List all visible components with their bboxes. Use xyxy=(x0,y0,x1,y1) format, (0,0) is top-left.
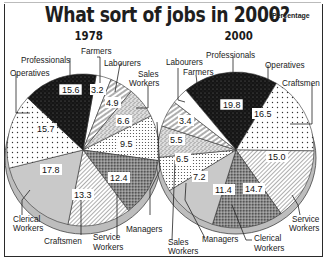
value-2000-operatives: 16.5 xyxy=(254,109,272,119)
label-1978-craftsmen: Craftsmen xyxy=(44,237,82,246)
value-2000-clerical: 11.4 xyxy=(215,185,232,195)
value-1978-craftsmen: 13.3 xyxy=(74,190,92,200)
value-1978-operatives: 15.7 xyxy=(37,124,55,134)
pie-charts-svg: Farmers Labourers Sales Workers Professi… xyxy=(0,0,325,264)
label-2000-sales-1: Sales xyxy=(168,238,188,247)
value-1978-sales: 6.6 xyxy=(117,116,130,126)
value-1978-farmers: 3.2 xyxy=(91,85,104,95)
label-2000-service-1: Service xyxy=(292,215,320,224)
value-2000-professionals: 19.8 xyxy=(223,100,241,110)
label-2000-craftsmen: Craftsmen xyxy=(282,79,320,88)
label-2000-farmers: Farmers xyxy=(183,68,213,77)
label-1978-service-2: Workers xyxy=(93,243,123,252)
label-1978-labourers: Labourers xyxy=(104,59,141,68)
value-1978-labourers: 4.9 xyxy=(106,98,119,108)
label-1978-operatives: Operatives xyxy=(10,69,50,78)
label-1978-farmers: Farmers xyxy=(81,47,111,56)
value-1978-professionals: 15.6 xyxy=(62,85,80,95)
label-2000-sales-2: Workers xyxy=(168,247,198,256)
value-2000-craftsmen: 15.0 xyxy=(268,152,286,162)
label-1978-clerical-1: Clerical xyxy=(13,215,40,224)
label-2000-professionals: Professionals xyxy=(206,51,255,60)
label-1978-professionals: Professionals xyxy=(21,56,70,65)
label-2000-labourers: Labourers xyxy=(166,58,203,67)
label-2000-operatives: Operatives xyxy=(265,61,305,70)
value-2000-labourers: 5.5 xyxy=(170,135,183,145)
pie-chart-2000 xyxy=(158,72,314,228)
value-1978-clerical: 17.8 xyxy=(42,165,60,175)
value-1978-service: 12.4 xyxy=(110,173,128,183)
label-1978-managers: Managers xyxy=(126,225,162,234)
label-1978-sales-1: Sales xyxy=(138,70,158,79)
label-1978-service-1: Service xyxy=(93,233,121,242)
label-2000-service-2: Workers xyxy=(289,224,319,233)
value-2000-sales: 6.5 xyxy=(176,154,189,164)
value-2000-service: 14.7 xyxy=(245,184,263,194)
label-2000-clerical-1: Clerical xyxy=(254,234,281,243)
label-2000-managers: Managers xyxy=(202,235,238,244)
value-2000-farmers: 3.4 xyxy=(179,116,192,126)
value-1978-managers: 9.5 xyxy=(120,139,133,149)
label-1978-sales-2: Workers xyxy=(129,79,159,88)
label-2000-clerical-2: Workers xyxy=(254,244,284,253)
pie-chart-1978 xyxy=(7,74,159,226)
value-2000-managers: 7.2 xyxy=(193,172,206,182)
label-1978-clerical-2: Workers xyxy=(13,224,43,233)
